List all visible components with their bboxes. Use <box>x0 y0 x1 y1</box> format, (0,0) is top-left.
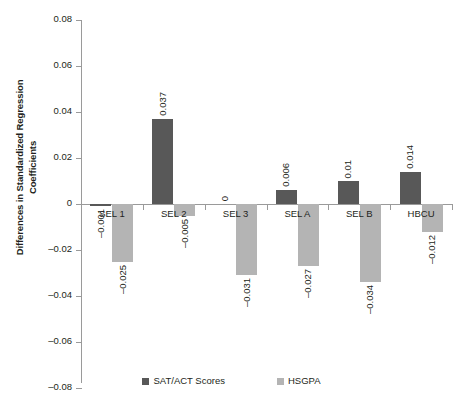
y-tick-mark <box>76 20 82 21</box>
bar-value-label: –0.012 <box>426 235 437 264</box>
x-category-label: SEL 3 <box>205 208 267 219</box>
x-category-label: SEL 1 <box>81 208 143 219</box>
y-tick-mark <box>76 66 82 67</box>
bar-value-label: –0.034 <box>364 285 375 314</box>
x-category-label: SEL B <box>328 208 390 219</box>
y-tick-mark <box>76 342 82 343</box>
bar-value-label: 0 <box>219 196 230 201</box>
y-axis-title: Differences in Standardized Regression C… <box>14 68 39 268</box>
y-tick-mark <box>76 388 82 389</box>
bar-value-label: 0.037 <box>157 92 168 116</box>
y-tick-label: –0.06 <box>48 335 72 346</box>
bar-value-label: 0.01 <box>342 160 353 179</box>
x-category-label: SEL A <box>267 208 329 219</box>
legend-item: SAT/ACT Scores <box>142 375 224 386</box>
bar-value-label: –0.031 <box>241 278 252 307</box>
bar-value-label: –0.005 <box>179 219 190 248</box>
bar-value-label: 0.006 <box>280 163 291 187</box>
bar-chart: Differences in Standardized Regression C… <box>0 0 463 406</box>
y-tick-label: 0.02 <box>54 151 73 162</box>
plot-area: 0.080.060.040.020–0.02–0.04–0.06–0.08 –0… <box>81 20 452 383</box>
bar <box>400 172 421 204</box>
x-tick-mark <box>452 204 453 210</box>
legend-label: HSGPA <box>288 375 321 386</box>
chart-legend: SAT/ACT ScoresHSGPA <box>0 375 463 386</box>
bar <box>152 119 173 204</box>
y-tick-label: 0.04 <box>54 105 73 116</box>
y-tick-label: –0.02 <box>48 243 72 254</box>
y-tick-label: 0 <box>67 197 72 208</box>
legend-item: HSGPA <box>277 375 321 386</box>
y-axis-line <box>81 20 82 383</box>
y-tick-mark <box>76 296 82 297</box>
x-category-label: HBCU <box>390 208 452 219</box>
y-tick-mark <box>76 250 82 251</box>
bar <box>90 204 111 206</box>
legend-swatch-icon <box>142 378 149 385</box>
y-tick-label: –0.04 <box>48 289 72 300</box>
y-tick-mark <box>76 158 82 159</box>
legend-swatch-icon <box>277 378 284 385</box>
bar-value-label: –0.025 <box>117 265 128 294</box>
x-category-label: SEL 2 <box>143 208 205 219</box>
bar-value-label: 0.014 <box>404 145 415 169</box>
y-tick-label: 0.08 <box>54 13 73 24</box>
y-tick-mark <box>76 112 82 113</box>
y-tick-label: 0.06 <box>54 59 73 70</box>
legend-label: SAT/ACT Scores <box>153 375 224 386</box>
bar-value-label: –0.027 <box>302 269 313 298</box>
bar <box>276 190 297 204</box>
bar <box>338 181 359 204</box>
